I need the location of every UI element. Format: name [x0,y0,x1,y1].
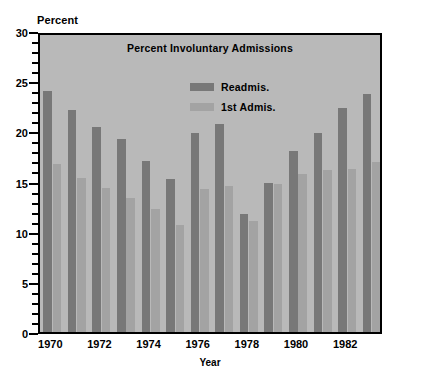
bar-readmis-1974 [142,161,150,332]
bar-first-admis-1983 [372,162,380,332]
bar-first-admis-1972 [102,188,110,332]
y-axis-major-tick [29,82,38,84]
bar-readmis-1977 [215,124,223,332]
bar-first-admis-1982 [348,169,356,332]
bar-readmis-1973 [117,139,125,332]
bar-first-admis-1970 [53,164,61,332]
y-axis-tick-label: 10 [0,228,28,240]
bar-readmis-1978 [240,214,248,332]
legend-label-readmis: Readmis. [221,81,269,93]
bar-first-admis-1978 [249,221,257,332]
y-axis-major-tick [29,132,38,134]
bar-first-admis-1975 [176,225,184,332]
chart-figure: Percent 051015202530 1970197219741976197… [0,0,422,392]
y-axis-major-tick [29,32,38,34]
x-axis-tick-label: 1978 [235,338,259,350]
x-axis-tick-label: 1976 [185,338,209,350]
x-axis-tick-label: 1980 [284,338,308,350]
bar-readmis-1982 [338,108,346,332]
plot-area: Percent Involuntary Admissions Readmis. … [38,33,382,334]
bar-first-admis-1973 [126,198,134,332]
x-axis-tick-label: 1972 [87,338,111,350]
bar-readmis-1980 [289,151,297,332]
bar-readmis-1981 [314,133,322,332]
bar-first-admis-1981 [323,170,331,332]
bar-first-admis-1974 [151,209,159,332]
bar-first-admis-1971 [77,178,85,333]
y-axis-major-tick [29,183,38,185]
x-axis-tick-label: 1982 [333,338,357,350]
bar-readmis-1983 [363,94,371,332]
y-axis-tick-label: 0 [0,328,28,340]
bar-first-admis-1979 [274,184,282,332]
bar-first-admis-1976 [200,189,208,332]
legend-item-readmis: Readmis. [190,79,276,95]
y-axis-major-tick [29,333,38,335]
bar-readmis-1976 [191,133,199,332]
x-axis-tick-label: 1970 [38,338,62,350]
y-axis-tick-label: 5 [0,278,28,290]
y-axis-major-tick [29,283,38,285]
y-axis-tick-label: 25 [0,77,28,89]
legend-swatch-first-admis [190,103,214,111]
chart-legend: Readmis. 1st Admis. [190,79,276,119]
legend-label-first-admis: 1st Admis. [221,101,276,113]
bar-first-admis-1980 [298,174,306,332]
y-axis-tick-label: 20 [0,127,28,139]
bar-readmis-1975 [166,179,174,333]
bar-readmis-1971 [68,110,76,332]
bar-readmis-1972 [92,127,100,332]
bar-readmis-1970 [43,91,51,332]
legend-item-first-admis: 1st Admis. [190,99,276,115]
bar-readmis-1979 [264,183,272,332]
y-axis-unit-label: Percent [37,14,78,26]
legend-swatch-readmis [190,83,214,91]
y-axis-tick-label: 15 [0,178,28,190]
x-axis-tick-label: 1974 [136,338,160,350]
y-axis-major-tick [29,233,38,235]
x-axis-title: Year [38,357,382,368]
y-axis-tick-label: 30 [0,27,28,39]
bar-first-admis-1977 [225,186,233,332]
